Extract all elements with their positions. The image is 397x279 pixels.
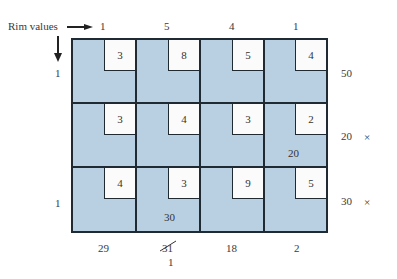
strikethrough-mark — [159, 240, 177, 252]
cell-r2-c3: 3 — [201, 104, 265, 168]
down-arrow-icon — [54, 36, 62, 62]
column-rim-4: 1 — [293, 20, 299, 32]
cell-r3-c1: 4 — [73, 168, 137, 231]
cost-box: 3 — [104, 104, 135, 135]
cell-r2-c4: 2 20 — [265, 104, 326, 168]
cell-r1-c1: 3 — [73, 40, 137, 104]
right-arrow-icon — [67, 24, 93, 30]
cost-box: 8 — [168, 40, 199, 71]
cost-box: 9 — [232, 168, 263, 199]
demand-col-1: 29 — [98, 242, 109, 254]
cell-r1-c2: 8 — [137, 40, 201, 104]
cost-box: 2 — [295, 104, 326, 135]
cell-r1-c4: 4 — [265, 40, 326, 104]
cost-box: 3 — [168, 168, 199, 199]
column-rim-3: 4 — [229, 20, 235, 32]
allocation-value: 20 — [288, 147, 299, 159]
column-rim-1: 1 — [100, 20, 106, 32]
cost-box: 4 — [168, 104, 199, 135]
demand-col-4: 2 — [294, 242, 300, 254]
cost-box: 5 — [232, 40, 263, 71]
demand-col-2-updated: 1 — [168, 256, 174, 268]
allocation-value: 30 — [164, 211, 175, 223]
cost-box: 4 — [104, 168, 135, 199]
cell-r1-c3: 5 — [201, 40, 265, 104]
supply-crossed-mark: × — [364, 196, 370, 208]
supply-row-1: 50 — [341, 67, 352, 79]
cost-box: 3 — [104, 40, 135, 71]
cost-box: 5 — [295, 168, 326, 199]
cell-r2-c2: 4 — [137, 104, 201, 168]
supply-row-3: 30 — [341, 195, 352, 207]
transportation-tableau: 3 8 5 4 3 4 3 2 20 4 3 30 9 5 — [71, 38, 328, 233]
cost-box: 4 — [295, 40, 326, 71]
row-rim-3: 1 — [55, 197, 61, 209]
cell-r3-c2: 3 30 — [137, 168, 201, 231]
cell-r3-c4: 5 — [265, 168, 326, 231]
cell-r3-c3: 9 — [201, 168, 265, 231]
cost-box: 3 — [232, 104, 263, 135]
rim-values-label: Rim values — [8, 20, 58, 32]
supply-row-2: 20 — [341, 130, 352, 142]
cell-r2-c1: 3 — [73, 104, 137, 168]
demand-col-3: 18 — [226, 242, 237, 254]
column-rim-2: 5 — [164, 20, 170, 32]
supply-crossed-mark: × — [364, 131, 370, 143]
row-rim-1: 1 — [55, 67, 61, 79]
